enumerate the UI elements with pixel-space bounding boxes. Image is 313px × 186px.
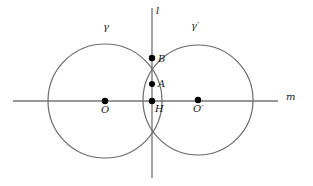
point-B-dot (149, 55, 155, 61)
label-point-O: O (101, 105, 109, 115)
point-A-dot (149, 81, 155, 87)
label-gamma: γ (103, 22, 109, 32)
label-point-O-prime: O′ (193, 104, 203, 114)
label-point-B: B (158, 54, 165, 64)
label-point-A: A (158, 79, 165, 89)
diagram-canvas (0, 0, 313, 186)
label-gamma-prime: γ′ (191, 21, 199, 31)
label-line-m: m (286, 92, 295, 102)
label-line-l: l (156, 6, 159, 16)
geometry-figure: γ γ′ l m B A H O O′ (0, 0, 313, 186)
label-point-H: H (155, 104, 164, 114)
